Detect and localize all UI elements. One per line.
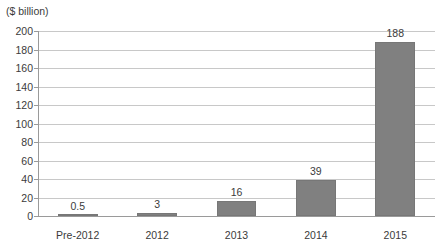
plot-area: 0.531639188 — [38, 31, 435, 216]
y-axis-tick-label: 20 — [21, 192, 33, 204]
bar — [217, 201, 257, 216]
bar-value-label: 0.5 — [38, 200, 117, 212]
bar — [296, 180, 336, 216]
bar — [137, 213, 177, 216]
x-axis-tick-label: 2012 — [117, 228, 196, 242]
y-axis-tick-label: 160 — [15, 62, 33, 74]
bar-slot: 16 — [197, 31, 276, 216]
bar-slot: 3 — [117, 31, 196, 216]
bar-slot: 188 — [356, 31, 435, 216]
bar — [375, 42, 415, 216]
y-axis-tick-label: 40 — [21, 173, 33, 185]
y-axis-tick-label: 60 — [21, 155, 33, 167]
bar — [58, 214, 98, 216]
bar-slot: 0.5 — [38, 31, 117, 216]
x-axis-tick-label: 2014 — [276, 228, 355, 242]
y-axis-tick-mark — [34, 216, 39, 217]
y-axis-tick-label: 140 — [15, 81, 33, 93]
x-axis-tick-label: Pre-2012 — [38, 228, 117, 242]
bar-slot: 39 — [276, 31, 355, 216]
y-axis-tick-label: 200 — [15, 25, 33, 37]
bar-value-label: 188 — [356, 27, 435, 39]
y-axis-tick-labels: 200180160140120100806040200 — [0, 0, 33, 252]
x-axis-tick-labels: Pre-20122012201320142015 — [38, 228, 435, 244]
x-axis-tick-label: 2013 — [197, 228, 276, 242]
y-axis-tick-label: 80 — [21, 136, 33, 148]
y-axis-tick-label: 100 — [15, 118, 33, 130]
y-axis-tick-label: 120 — [15, 99, 33, 111]
bar-value-label: 3 — [117, 198, 196, 210]
y-axis-tick-label: 0 — [27, 210, 33, 222]
gridline — [38, 216, 435, 217]
bar-value-label: 16 — [197, 186, 276, 198]
x-axis-tick-label: 2015 — [356, 228, 435, 242]
y-axis-tick-label: 180 — [15, 44, 33, 56]
bar-value-label: 39 — [276, 165, 355, 177]
bar-chart: ($ billion) 200180160140120100806040200 … — [0, 0, 442, 252]
